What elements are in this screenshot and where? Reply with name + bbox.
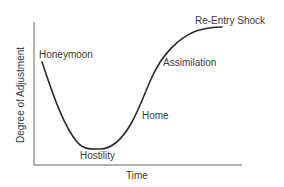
x-axis-label: Time [126, 170, 148, 181]
adjustment-curve-diagram: Degree of Adjustment Time Honeymoon Host… [0, 0, 284, 187]
stage-label-honeymoon: Honeymoon [39, 49, 93, 60]
adjustment-curve [42, 27, 222, 149]
stage-label-home: Home [142, 110, 169, 121]
stage-label-assimilation: Assimilation [163, 57, 216, 68]
stage-label-re-entry-shock: Re-Entry Shock [195, 15, 266, 26]
stage-label-hostility: Hostility [80, 150, 115, 161]
y-axis-label: Degree of Adjustment [15, 47, 26, 143]
